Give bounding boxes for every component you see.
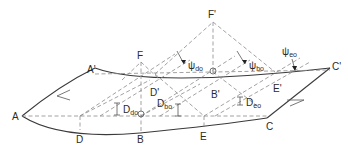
label-D-eo: Deo (246, 97, 261, 109)
label-D-prime: D' (150, 87, 159, 98)
label-A: A (12, 111, 19, 122)
label-D-do: Ddo (123, 104, 138, 116)
label-psi-eo: ψeo (282, 46, 297, 58)
edge-A-C-curve (22, 116, 267, 135)
tick-right (287, 100, 304, 106)
label-psi-do: ψdo (188, 60, 203, 72)
label-C-prime: C' (332, 61, 341, 72)
label-B-prime: B' (211, 89, 220, 100)
label-F-prime: F' (208, 9, 216, 20)
label-E: E (200, 131, 207, 142)
tick-left (57, 90, 70, 100)
diagram-canvas: A A' D B E C C' F F' D' B' E' ψdo ψbo ψe… (0, 0, 348, 161)
edge-A-Aprime (22, 68, 95, 116)
label-D-bo: Dbo (157, 98, 172, 110)
D-do-arrow (114, 103, 120, 115)
label-B: B (137, 134, 144, 145)
label-psi-bo: ψbo (249, 60, 264, 72)
label-E-prime: E' (273, 83, 282, 94)
label-A-prime: A' (87, 64, 96, 75)
geometry-diagram: A A' D B E C C' F F' D' B' E' ψdo ψbo ψe… (0, 0, 348, 161)
label-F: F (137, 50, 143, 61)
D-bo-arrow (175, 104, 181, 116)
D-eo-arrow (237, 97, 243, 105)
label-D: D (76, 134, 83, 145)
label-C: C (266, 121, 273, 132)
